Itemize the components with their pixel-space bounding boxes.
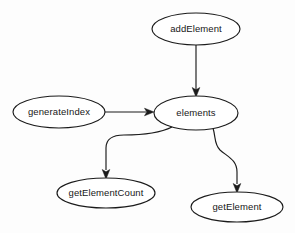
edge-elements-to-getElementCount[interactable]: [102, 127, 172, 179]
node-getElement[interactable]: getElement: [191, 192, 283, 222]
node-elements[interactable]: elements: [154, 96, 238, 130]
node-addElement[interactable]: addElement: [152, 13, 240, 45]
node-label: addElement: [170, 23, 222, 34]
edge-elements-to-getElement[interactable]: [213, 128, 241, 193]
edge-addElement-to-elements[interactable]: [192, 45, 200, 97]
node-getElementCount[interactable]: getElementCount: [57, 178, 155, 208]
edge-line: [213, 128, 237, 184]
node-label: getElementCount: [69, 187, 144, 198]
node-label: generateIndex: [28, 106, 90, 117]
node-generateIndex[interactable]: generateIndex: [13, 96, 105, 128]
edge-line: [106, 127, 172, 170]
diagram-canvas: addElement generateIndex elements getEle…: [0, 0, 295, 233]
node-layer: addElement generateIndex elements getEle…: [13, 13, 283, 222]
graph-svg: addElement generateIndex elements getEle…: [0, 0, 295, 233]
edge-generateIndex-to-elements[interactable]: [105, 108, 154, 116]
node-label: getElement: [212, 201, 261, 212]
node-label: elements: [176, 107, 215, 118]
